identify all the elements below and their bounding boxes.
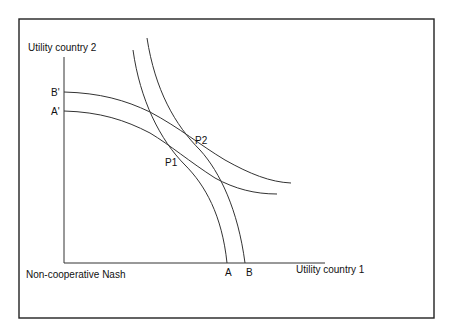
y-axis-label: Utility country 2 (28, 43, 96, 53)
point-label-a: A (225, 268, 232, 278)
point-label-b: B (246, 268, 253, 278)
point-label-p1: P1 (165, 158, 177, 168)
x-axis-label: Utility country 1 (296, 265, 364, 275)
curve-b-prime (64, 92, 291, 183)
curve-b (147, 38, 245, 263)
curve-a (133, 50, 227, 263)
point-label-b-prime: B' (51, 88, 60, 98)
point-label-a-prime: A' (51, 107, 60, 117)
curve-a-prime (64, 111, 277, 194)
diagram: Utility country 2 B' A' P2 P1 A B Utilit… (0, 0, 451, 334)
origin-label: Non-cooperative Nash (26, 270, 126, 280)
point-label-p2: P2 (195, 136, 207, 146)
